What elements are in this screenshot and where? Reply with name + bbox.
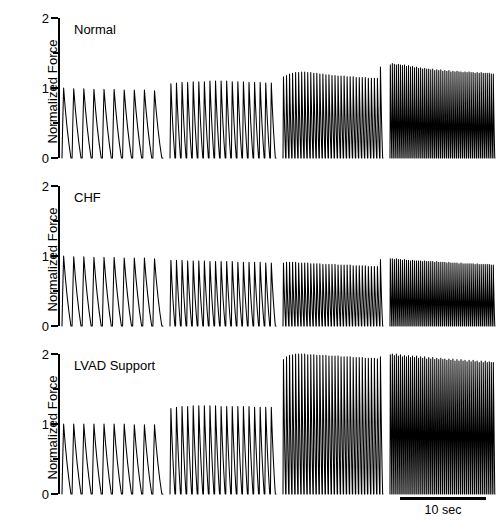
panel-normal: Normalized Force 012 Normal [0,18,499,168]
y-tick-label-1: 1 [42,82,49,95]
y-tick-0 [51,325,58,326]
plot-area-lvad: 012 LVAD Support [58,354,495,494]
y-tick-1 [51,87,58,88]
trace-path-normal [62,64,495,159]
scalebar-label: 10 sec [394,503,492,517]
trace-path-lvad-support [62,354,495,494]
force-frequency-figure: Normalized Force 012 Normal Normalized F… [0,0,499,530]
trace-normal [58,18,495,158]
trace-lvad [58,354,495,494]
plot-area-chf: 012 CHF [58,186,495,326]
y-tick-2 [51,185,58,186]
panel-lvad: Normalized Force 012 LVAD Support [0,354,499,504]
scalebar-line [400,497,486,500]
y-tick-label-2: 2 [42,348,49,361]
y-tick-1 [51,255,58,256]
y-tick-label-2: 2 [42,180,49,193]
y-tick-label-1: 1 [42,250,49,263]
trace-path-chf [62,256,495,326]
y-tick-label-1: 1 [42,418,49,431]
y-tick-label-0: 0 [42,152,49,165]
y-tick-2 [51,353,58,354]
plot-area-normal: 012 Normal [58,18,495,158]
trace-chf [58,186,495,326]
time-scalebar: 10 sec [394,497,499,517]
y-tick-label-2: 2 [42,12,49,25]
y-tick-label-0: 0 [42,320,49,333]
panel-chf: Normalized Force 012 CHF [0,186,499,336]
y-tick-0 [51,493,58,494]
y-tick-label-0: 0 [42,488,49,501]
y-tick-0 [51,157,58,158]
y-tick-2 [51,17,58,18]
y-tick-1 [51,423,58,424]
